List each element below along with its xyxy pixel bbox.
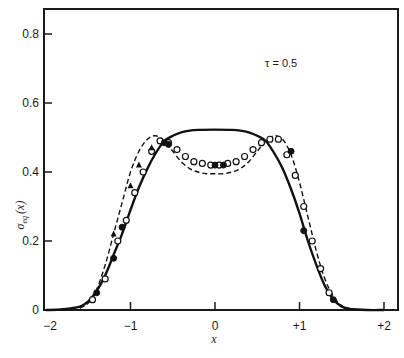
open-circle-marker	[309, 238, 315, 244]
open-circle-marker	[292, 172, 298, 178]
open-circle-marker	[132, 190, 138, 196]
triangle-marker	[149, 144, 155, 150]
plot-border	[44, 9, 398, 310]
open-circle-marker	[199, 160, 205, 166]
open-circle-marker	[140, 169, 146, 175]
triangle-marker	[111, 231, 117, 237]
x-tick-label: +1	[293, 319, 307, 333]
filled-circle-marker	[111, 255, 117, 261]
y-axis-title: σeq(x)	[13, 201, 29, 230]
filled-circle-marker	[330, 297, 336, 303]
tau-annotation: τ = 0.5	[265, 57, 297, 69]
filled-circle-marker	[220, 162, 226, 168]
open-circle-marker	[123, 217, 129, 223]
x-tick-labels: −2−10+1+2	[43, 319, 391, 333]
y-tick-labels: 00.20.40.60.8	[22, 27, 39, 317]
chart-canvas: −2−10+1+2 00.20.40.60.8 x σeq(x) τ = 0.5	[0, 0, 404, 358]
y-axis-title-sub: eq	[20, 216, 29, 224]
open-circle-marker	[318, 266, 324, 272]
open-circle-marker	[233, 159, 239, 165]
open-circle-marker	[250, 147, 256, 153]
filled-circle-marker	[94, 290, 100, 296]
x-tick-label: 0	[212, 319, 219, 333]
open-circle-marker	[326, 290, 332, 296]
open-circle-marker	[115, 238, 121, 244]
open-circle-marker	[242, 153, 248, 159]
open-circle-marker	[89, 297, 95, 303]
x-axis-title: x	[210, 332, 217, 346]
open-circle-marker	[275, 136, 281, 142]
triangle-marker	[128, 182, 134, 188]
open-circle-marker	[182, 153, 188, 159]
data-markers	[89, 136, 336, 302]
filled-circle-marker	[166, 141, 172, 147]
y-tick-label: 0.8	[22, 27, 39, 41]
y-tick-label: 0	[32, 303, 39, 317]
open-circle-marker	[102, 276, 108, 282]
open-circle-marker	[267, 136, 273, 142]
y-tick-label: 0.4	[22, 165, 39, 179]
axis-ticks	[44, 34, 384, 310]
x-tick-label: −1	[124, 319, 138, 333]
svg-text:σeq(x): σeq(x)	[13, 201, 29, 230]
x-tick-label: −2	[43, 319, 57, 333]
x-tick-label: +2	[377, 319, 391, 333]
triangle-marker	[136, 162, 142, 168]
open-circle-marker	[174, 147, 180, 153]
plot-frame	[44, 9, 398, 310]
open-circle-marker	[258, 140, 264, 146]
filled-circle-marker	[119, 224, 125, 230]
y-tick-label: 0.6	[22, 96, 39, 110]
open-circle-marker	[301, 204, 307, 210]
filled-circle-marker	[288, 148, 294, 154]
open-circle-marker	[191, 159, 197, 165]
solid-curve	[46, 130, 384, 310]
filled-circle-marker	[212, 162, 218, 168]
filled-circle-marker	[301, 228, 307, 234]
y-axis-title-arg: (x)	[13, 201, 27, 214]
y-tick-label: 0.2	[22, 234, 39, 248]
data-series	[46, 130, 384, 310]
